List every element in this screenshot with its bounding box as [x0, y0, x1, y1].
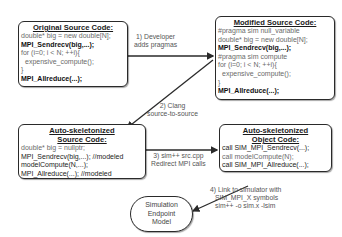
code-line: MPI_Sendrecv(big,...);	[21, 41, 125, 50]
code-line: for (i=0; i < N; ++i){	[218, 61, 332, 70]
step2-label: 2) Clang source-to-source	[147, 102, 198, 118]
code-line: }	[218, 79, 332, 88]
code-line: double* big = new double[N];	[21, 32, 125, 41]
code-line: MPI_Allreduce(...);	[218, 87, 332, 96]
code-line: modelCompute(N,...);	[21, 161, 143, 170]
code-line: }	[21, 66, 125, 75]
code-line: MPI_Sendrecv(big,...); //modeled	[21, 153, 143, 162]
skeleton-source-box: Auto-skeletonized Source Code: double* b…	[18, 124, 146, 179]
step3-label: 3) sim++ src.cpp Redirect MPI calls	[151, 152, 206, 168]
modified-source-title: Modified Source Code:	[218, 18, 332, 27]
code-line: MPI_Sendrecv(big,...);	[218, 44, 332, 53]
skeleton-object-box: Auto-skeletonized Object Code: call SIM_…	[219, 124, 332, 172]
sim-line: Model	[131, 218, 192, 227]
code-line: call modelCompute(N);	[222, 153, 329, 162]
sim-line: Simulation	[131, 201, 192, 210]
simulation-endpoint-model: Simulation Endpoint Model	[130, 196, 193, 232]
code-line: MPI_Allreduce(...);	[21, 75, 125, 84]
code-line: double* big = new double[N];	[218, 36, 332, 45]
modified-source-box: Modified Source Code: #pragma sim null_v…	[215, 16, 335, 100]
step1-line: adds pragmas	[134, 41, 177, 49]
skeleton-object-title-1: Auto-skeletonized	[222, 126, 329, 135]
skeleton-source-title-1: Auto-skeletonized	[21, 126, 143, 135]
code-line: MPI_Allreduce(...); //modeled	[21, 170, 143, 179]
step4-line: sim++ -o sim.x -lsim	[210, 202, 281, 210]
skeleton-source-title-2: Source Code:	[21, 135, 143, 144]
step2-line: source-to-source	[147, 110, 198, 118]
step4-label: 4) Link to simulator with SIM_MPI_X symb…	[210, 186, 281, 210]
code-line: double* big = nullptr;	[21, 144, 143, 153]
step3-line: 3) sim++ src.cpp	[151, 152, 206, 160]
code-line: call SIM_MPI_Sendrecv(...);	[222, 144, 329, 153]
skeleton-object-title-2: Object Code:	[222, 135, 329, 144]
step2-line: 2) Clang	[147, 102, 198, 110]
code-line: for (i=0; i < N; ++i){	[21, 49, 125, 58]
original-source-title: Original Source Code:	[21, 23, 125, 32]
code-line: expensive_compute();	[21, 58, 125, 67]
code-line: #pragma sim compute	[218, 53, 332, 62]
code-line: call SIM_MPI_Allreduce(...);	[222, 161, 329, 170]
original-source-box: Original Source Code: double* big = new …	[18, 21, 128, 87]
sim-line: Endpoint	[131, 210, 192, 219]
step1-label: 1) Developer adds pragmas	[134, 33, 177, 49]
step4-line: 4) Link to simulator with	[210, 186, 281, 194]
step3-line: Redirect MPI calls	[151, 160, 206, 168]
step4-line: SIM_MPI_X symbols	[210, 194, 281, 202]
code-line: expensive_compute();	[218, 70, 332, 79]
step1-line: 1) Developer	[134, 33, 177, 41]
code-line: #pragma sim null_variable	[218, 27, 332, 36]
